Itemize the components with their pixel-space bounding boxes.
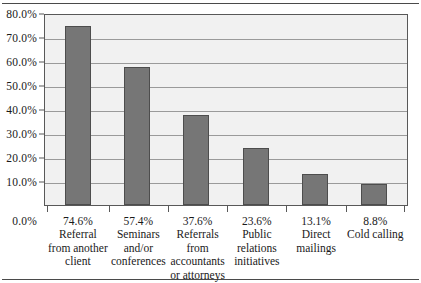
bar-chart-figure: 80.0%70.0%60.0%50.0%40.0%30.0%20.0%10.0%… <box>0 0 421 283</box>
y-tick-label: 20.0% <box>6 152 37 164</box>
x-tick-mark <box>227 206 228 212</box>
x-axis-category-label-line: Direct <box>287 228 344 242</box>
y-tick-label: 40.0% <box>6 104 37 116</box>
x-axis-category-label: Directmailings <box>286 228 345 255</box>
x-axis-category-label-line: Referral <box>48 228 108 242</box>
x-axis-category: 57.4%Seminarsand/orconferences <box>109 206 168 278</box>
x-axis-category-label-line: conferences <box>110 255 167 269</box>
x-axis-category: 23.6%Publicrelationsinitiatives <box>227 206 286 278</box>
bar-value-label: 74.6% <box>47 215 109 228</box>
x-axis-category-label: Referralsfromaccountantsor attorneys <box>168 228 227 282</box>
bar <box>302 174 328 205</box>
x-axis-category: 74.6%Referralfrom anotherclient <box>47 206 109 278</box>
x-axis-category-label-line: initiatives <box>228 255 285 269</box>
bar-slot <box>107 15 166 205</box>
x-axis-category-label-line: Seminars <box>110 228 167 242</box>
bar-slot <box>226 15 285 205</box>
x-axis-category: 37.6%Referralsfromaccountantsor attorney… <box>168 206 227 278</box>
x-axis-category-label: Seminarsand/orconferences <box>109 228 168 269</box>
x-axis: 74.6%Referralfrom anotherclient57.4%Semi… <box>44 206 408 278</box>
y-tick-label: 70.0% <box>6 32 37 44</box>
x-axis-category-label-line: Referrals <box>169 228 226 242</box>
x-axis-category-label-line: Cold calling <box>347 228 404 242</box>
x-axis-category: 13.1%Directmailings <box>286 206 345 278</box>
bars-layer <box>45 15 407 205</box>
x-axis-category-label-line: and/or <box>110 242 167 256</box>
bar-slot <box>345 15 404 205</box>
bar-slot <box>167 15 226 205</box>
top-divider-rule <box>2 3 419 4</box>
y-tick-label: 60.0% <box>6 56 37 68</box>
bar <box>361 184 387 205</box>
y-tick-label: 50.0% <box>6 80 37 92</box>
x-axis-category-label: Publicrelationsinitiatives <box>227 228 286 269</box>
plot-area <box>44 14 408 206</box>
bar-slot <box>48 15 107 205</box>
x-tick-mark <box>404 206 405 212</box>
y-axis: 80.0%70.0%60.0%50.0%40.0%30.0%20.0%10.0% <box>0 14 44 206</box>
bar-value-label: 37.6% <box>168 215 227 228</box>
x-tick-mark <box>286 206 287 212</box>
bar <box>243 148 269 205</box>
x-axis-category-label-line: relations <box>228 242 285 256</box>
x-axis-category-label-line: or attorneys <box>169 269 226 283</box>
y-tick-label: 80.0% <box>6 8 37 20</box>
x-tick-mark <box>168 206 169 212</box>
bar-value-label: 57.4% <box>109 215 168 228</box>
x-axis-category: 8.8%Cold calling <box>346 206 405 278</box>
x-tick-mark <box>47 206 48 212</box>
y-tick-label: 30.0% <box>6 128 37 140</box>
x-axis-category-label-line: from another <box>48 242 108 256</box>
bar-value-label: 13.1% <box>286 215 345 228</box>
bar <box>183 115 209 205</box>
bar-value-label: 23.6% <box>227 215 286 228</box>
bar <box>124 67 150 205</box>
x-axis-category-label: Referralfrom anotherclient <box>47 228 109 269</box>
x-axis-category-label: Cold calling <box>346 228 405 242</box>
x-axis-category-label-line: from <box>169 242 226 256</box>
bar-value-label: 8.8% <box>346 215 405 228</box>
y-tick-label-zero: 0.0% <box>0 206 37 228</box>
x-axis-category-label-line: mailings <box>287 242 344 256</box>
x-axis-category-label-line: client <box>48 255 108 269</box>
x-tick-mark <box>109 206 110 212</box>
x-axis-category-label-line: Public <box>228 228 285 242</box>
x-axis-category-label-line: accountants <box>169 255 226 269</box>
y-tick-label: 10.0% <box>6 176 37 188</box>
x-tick-mark <box>346 206 347 212</box>
bar <box>65 26 91 205</box>
bar-slot <box>285 15 344 205</box>
